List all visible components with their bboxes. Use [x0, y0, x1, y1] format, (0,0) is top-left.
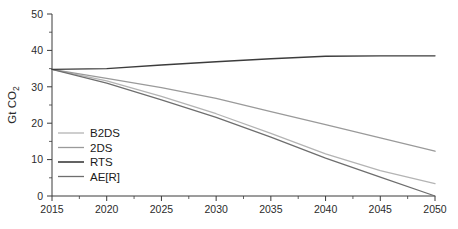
y-tick-label: 10	[31, 153, 43, 165]
legend-label-aer: AE[R]	[90, 171, 120, 183]
chart-canvas: 0102030405020152020202520302035204020452…	[0, 0, 458, 229]
x-tick-label: 2030	[204, 203, 228, 215]
x-tick-label: 2020	[95, 203, 119, 215]
y-tick-label: 20	[31, 117, 43, 129]
x-tick-label: 2045	[369, 203, 393, 215]
y-axis-title: Gt CO2	[6, 86, 21, 124]
legend-label-b2ds: B2DS	[90, 127, 120, 139]
legend: B2DS2DSRTSAE[R]	[58, 127, 120, 183]
legend-label-2ds: 2DS	[90, 142, 113, 154]
x-tick-label: 2035	[259, 203, 283, 215]
x-tick-label: 2050	[423, 203, 447, 215]
y-tick-label: 50	[31, 8, 43, 20]
y-tick-label: 30	[31, 81, 43, 93]
y-tick-label: 0	[37, 190, 43, 202]
series-line-rts	[52, 56, 435, 69]
svg-text:Gt CO2: Gt CO2	[6, 86, 21, 124]
x-tick-label: 2015	[40, 203, 64, 215]
x-tick-label: 2025	[150, 203, 174, 215]
x-tick-label: 2040	[314, 203, 338, 215]
emissions-scenarios-chart: 0102030405020152020202520302035204020452…	[0, 0, 458, 229]
y-tick-label: 40	[31, 44, 43, 56]
legend-label-rts: RTS	[90, 156, 113, 168]
